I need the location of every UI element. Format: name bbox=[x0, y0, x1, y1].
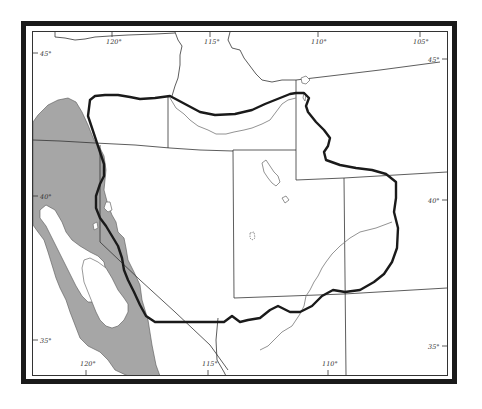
map-figure: 120° 115° 110° 105° 120° 115° 110° 45° 4… bbox=[0, 0, 482, 409]
lat-label-right-40: 40° bbox=[427, 197, 440, 205]
lon-label-top-120: 120° bbox=[106, 38, 122, 46]
lon-label-bottom-120: 120° bbox=[80, 360, 96, 368]
lat-label-right-45: 45° bbox=[427, 56, 440, 64]
sevier-lake bbox=[250, 232, 255, 240]
west-lake bbox=[93, 222, 98, 230]
lat-label-left-45: 45° bbox=[39, 50, 52, 58]
lon-label-bottom-115: 115° bbox=[202, 360, 218, 368]
lat-label-right-35: 35° bbox=[428, 343, 440, 351]
lon-label-top-110: 110° bbox=[311, 38, 327, 46]
lon-label-top-115: 115° bbox=[204, 38, 220, 46]
lon-label-bottom-110: 110° bbox=[322, 360, 338, 368]
lat-label-left-35: 35° bbox=[40, 337, 52, 345]
lat-label-left-40: 40° bbox=[39, 193, 52, 201]
lon-label-top-105: 105° bbox=[413, 38, 429, 46]
